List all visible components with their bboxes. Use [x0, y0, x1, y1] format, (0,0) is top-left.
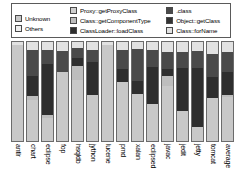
- bar-segment: [147, 67, 158, 105]
- legend-entry[interactable]: Proxy::getProxyClass: [70, 6, 166, 15]
- x-axis-tick: lucene: [101, 143, 114, 181]
- legend-entry[interactable]: Class::getComponentType: [70, 16, 166, 25]
- legend-entry[interactable]: Class::forName: [166, 26, 227, 35]
- bar-tomcat[interactable]: [206, 41, 219, 142]
- bar-segment: [132, 49, 143, 81]
- bar-segment: [147, 104, 158, 141]
- x-axis-tick-label: pmd: [119, 144, 126, 157]
- bar-segment: [57, 42, 68, 51]
- legend-entry[interactable]: .class: [166, 6, 227, 15]
- bar-segment: [27, 42, 38, 50]
- stacked-bar-chart: UnknownOthers Proxy::getProxyClassClass:…: [0, 0, 245, 181]
- bar-antlr[interactable]: [11, 41, 24, 142]
- x-axis-tick-label: eclipsed: [149, 144, 156, 168]
- legend-column-2: Proxy::getProxyClassClass::getComponentT…: [70, 6, 166, 35]
- bar-segment: [222, 72, 233, 96]
- x-axis-tick: average: [221, 143, 234, 181]
- x-axis-tick: pmd: [116, 143, 129, 181]
- x-axis-tick: fop: [56, 143, 69, 181]
- legend-entry-label: .class: [176, 7, 191, 14]
- legend-swatch-classloader-loadclass: [70, 27, 77, 34]
- bar-xalan[interactable]: [131, 41, 144, 142]
- bar-segment: [207, 42, 218, 54]
- bar-jetty[interactable]: [191, 41, 204, 142]
- x-axis-tick: tomcat: [206, 143, 219, 181]
- x-axis-tick-label: jetty: [194, 144, 201, 156]
- legend-entry[interactable]: Object::getClass: [166, 16, 227, 25]
- x-axis-tick-label: average: [224, 144, 231, 168]
- bar-segment: [27, 50, 38, 76]
- bar-segment: [222, 52, 233, 72]
- legend-entry[interactable]: Unknown: [15, 14, 70, 23]
- bar-segment: [132, 81, 143, 95]
- bar-segment: [177, 42, 188, 52]
- plot-area: [11, 41, 234, 142]
- bar-segment: [117, 42, 128, 50]
- bar-segment: [27, 100, 38, 141]
- bar-segment: [27, 76, 38, 97]
- legend-entry-label: Others: [25, 25, 43, 32]
- x-axis-tick: eclipse: [41, 143, 54, 181]
- x-axis-tick: jetty: [191, 143, 204, 181]
- legend-entry-label: Object::getClass: [176, 17, 220, 24]
- bar-segment: [102, 45, 113, 141]
- bar-segment: [42, 50, 53, 64]
- x-axis-tick: eclipsed: [146, 143, 159, 181]
- bar-chart[interactable]: [26, 41, 39, 142]
- bar-segment: [177, 111, 188, 141]
- bar-segment: [87, 95, 98, 141]
- bar-segment: [207, 98, 218, 141]
- bar-segment: [117, 69, 128, 82]
- legend-entry[interactable]: ClassLoader::loadClass: [70, 26, 166, 35]
- x-axis-tick-label: javac: [164, 144, 171, 159]
- bar-segment: [222, 97, 233, 141]
- bar-jedit[interactable]: [176, 41, 189, 142]
- bar-segment: [147, 50, 158, 67]
- bar-pmd[interactable]: [116, 41, 129, 142]
- bar-average[interactable]: [221, 41, 234, 142]
- bar-segment: [117, 82, 128, 141]
- bar-segment: [207, 77, 218, 99]
- legend-swatch-unknown: [15, 15, 22, 22]
- legend-swatch-class-forname: [166, 27, 173, 34]
- bar-segment: [87, 50, 98, 62]
- bar-segment: [147, 42, 158, 50]
- bar-segment: [192, 42, 203, 51]
- bar-fop[interactable]: [56, 41, 69, 142]
- bar-segment: [162, 52, 173, 69]
- bar-segment: [87, 42, 98, 50]
- legend-entry-label: Proxy::getProxyClass: [80, 7, 137, 14]
- x-axis-tick-label: antlr: [14, 144, 21, 157]
- x-axis-tick-label: chart: [29, 144, 36, 159]
- bar-jython[interactable]: [86, 41, 99, 142]
- x-axis-labels: antlrcharteclipsefophsqldbjythonlucenepm…: [11, 143, 234, 181]
- bar-eclipsed[interactable]: [146, 41, 159, 142]
- bar-segment: [42, 64, 53, 115]
- legend-swatch-proxy-getproxyclass: [70, 7, 77, 14]
- bar-hsqldb[interactable]: [71, 41, 84, 142]
- bar-segment: [162, 76, 173, 86]
- bar-segment: [162, 69, 173, 76]
- legend-entry-label: ClassLoader::loadClass: [80, 27, 143, 34]
- legend-entry-label: Class::getComponentType: [80, 17, 151, 24]
- bar-segment: [87, 62, 98, 96]
- x-axis-tick: hsqldb: [71, 143, 84, 181]
- legend-column-3: .classObject::getClassClass::forName: [166, 6, 227, 35]
- bar-segment: [72, 80, 83, 141]
- bar-segment: [72, 48, 83, 58]
- bar-segment: [162, 86, 173, 141]
- legend-entry[interactable]: Others: [15, 24, 70, 33]
- chart-legend: UnknownOthers Proxy::getProxyClassClass:…: [11, 3, 231, 38]
- legend-swatch-object-getclass: [166, 17, 173, 24]
- legend-swatch-dot-class: [166, 7, 173, 14]
- x-axis-tick: antlr: [11, 143, 24, 181]
- legend-swatch-class-getcomponenttype: [70, 17, 77, 24]
- x-axis-tick-label: jython: [89, 144, 96, 161]
- bar-lucene[interactable]: [101, 41, 114, 142]
- bar-segment: [132, 42, 143, 49]
- bar-segment: [42, 42, 53, 50]
- bar-javac[interactable]: [161, 41, 174, 142]
- bar-segment: [42, 118, 53, 141]
- bar-eclipse[interactable]: [41, 41, 54, 142]
- legend-entry-label: Class::forName: [176, 27, 217, 34]
